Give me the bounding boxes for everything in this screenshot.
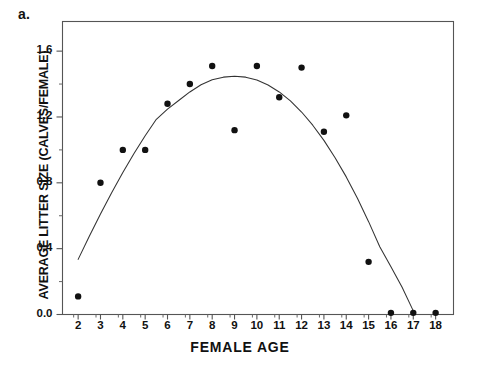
data-point: [75, 293, 81, 299]
y-tick-label: 0.4: [19, 241, 53, 253]
x-tick-label: 10: [245, 319, 269, 331]
data-point: [276, 94, 282, 100]
data-point: [254, 63, 260, 69]
x-tick-label: 15: [357, 319, 381, 331]
panel-label: a.: [18, 6, 30, 22]
x-tick-label: 4: [111, 319, 135, 331]
data-point: [164, 101, 170, 107]
x-tick-label: 18: [424, 319, 448, 331]
data-point: [142, 147, 148, 153]
x-tick-label: 13: [312, 319, 336, 331]
x-tick-label: 17: [401, 319, 425, 331]
y-tick-label: 0.8: [19, 175, 53, 187]
x-tick-label: 3: [88, 319, 112, 331]
figure-panel-a: a. AVERAGE LITTER SIZE (CALVES/FEMALE) F…: [0, 0, 480, 366]
data-point: [365, 259, 371, 265]
x-tick-label: 11: [267, 319, 291, 331]
data-point: [231, 127, 237, 133]
data-point: [97, 180, 103, 186]
data-point: [187, 81, 193, 87]
x-tick-label: 6: [156, 319, 180, 331]
x-tick-label: 16: [379, 319, 403, 331]
data-point: [343, 112, 349, 118]
data-point: [321, 129, 327, 135]
x-tick-label: 12: [290, 319, 314, 331]
data-point: [432, 310, 438, 316]
x-tick-label: 14: [334, 319, 358, 331]
data-point: [120, 147, 126, 153]
x-tick-label: 9: [223, 319, 247, 331]
data-point: [388, 310, 394, 316]
data-point: [410, 310, 416, 316]
y-tick-label: 1.2: [19, 109, 53, 121]
x-tick-label: 7: [178, 319, 202, 331]
x-tick-label: 8: [200, 319, 224, 331]
y-tick-label: 1.6: [19, 43, 53, 55]
data-point: [298, 64, 304, 70]
scatter-plot-canvas: [0, 0, 480, 366]
data-point: [209, 63, 215, 69]
fitted-curve: [78, 76, 415, 314]
data-point-group: [75, 63, 439, 316]
x-tick-label: 2: [66, 319, 90, 331]
y-tick-label: 0.0: [19, 307, 53, 319]
x-tick-label: 5: [133, 319, 157, 331]
x-axis-title: FEMALE AGE: [0, 339, 480, 355]
y-axis-ticks: [57, 51, 63, 314]
